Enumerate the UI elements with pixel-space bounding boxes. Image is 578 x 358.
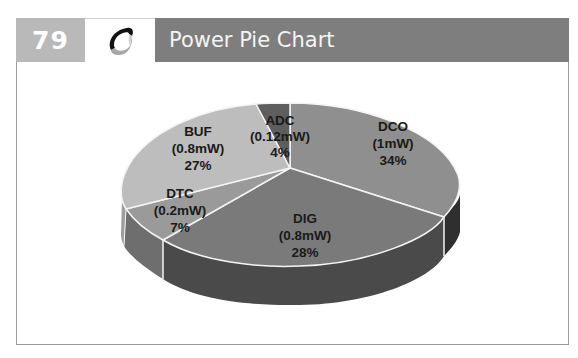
label-buf-power: (0.8mW) xyxy=(172,141,225,156)
label-dtc-name: DTC xyxy=(166,186,194,201)
label-dco-name: DCO xyxy=(378,119,408,134)
label-buf-pct: 27% xyxy=(184,158,211,173)
label-dig-name: DIG xyxy=(293,211,317,226)
label-dig-pct: 28% xyxy=(291,245,318,260)
label-dig-power: (0.8mW) xyxy=(279,228,332,243)
label-dtc-pct: 7% xyxy=(170,220,190,235)
label-adc-power: (0.12mW) xyxy=(250,129,310,144)
pie-chart: ADC (0.12mW) 4% DCO (1mW) 34% BUF (0.8mW… xyxy=(0,0,578,358)
label-adc-name: ADC xyxy=(265,113,294,128)
label-dco-power: (1mW) xyxy=(372,136,413,151)
label-buf-name: BUF xyxy=(184,124,212,139)
label-dtc-power: (0.2mW) xyxy=(154,203,207,218)
label-dco-pct: 34% xyxy=(379,153,406,168)
label-adc-pct: 4% xyxy=(270,145,290,160)
